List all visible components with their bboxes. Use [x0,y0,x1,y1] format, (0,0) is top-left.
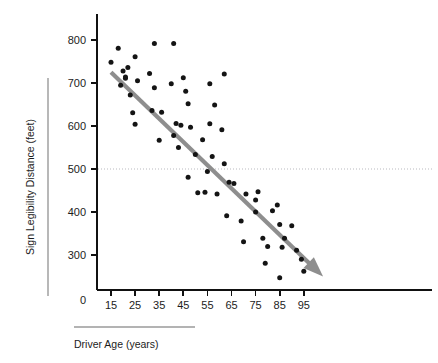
data-point [174,121,179,126]
y-tick-label: 400 [68,206,86,218]
data-point [118,83,123,88]
y-tick-label: 600 [68,120,86,132]
data-point [294,248,299,253]
data-point [301,269,306,274]
data-point [224,213,229,218]
data-point [181,75,186,80]
data-point [299,257,304,262]
data-point [277,222,282,227]
data-point [121,68,126,73]
data-point [147,71,152,76]
x-tick-label: 85 [274,299,286,311]
x-axis-title: Driver Age (years) [74,338,159,350]
trend-line-layer [111,72,323,276]
data-point [133,54,138,59]
data-point [215,191,220,196]
data-point [183,89,188,94]
y-tick-label: 700 [68,77,86,89]
x-tick-label: 45 [177,299,189,311]
x-tick-label: 55 [201,299,213,311]
data-points-layer [109,41,307,280]
data-point [241,239,246,244]
data-point [212,102,217,107]
x-tick-label: 25 [129,299,141,311]
data-point [219,127,224,132]
data-point [152,85,157,90]
data-point [265,244,270,249]
data-point [186,101,191,106]
y-tick-label: 800 [68,34,86,46]
data-point [277,275,282,280]
y-axis-title: Sign Legibility Distance (feet) [24,119,36,255]
data-point [253,197,258,202]
data-point [289,223,294,228]
data-point [125,65,130,70]
x-tick-label: 15 [105,299,117,311]
axes-layer [91,14,432,296]
data-point [171,41,176,46]
data-point [282,236,287,241]
data-point [207,81,212,86]
data-point [275,203,280,208]
y-tick-label: 300 [68,249,86,261]
data-point [207,121,212,126]
data-point [176,145,181,150]
data-point [202,190,207,195]
x-tick-label: 35 [153,299,165,311]
data-point [171,133,176,138]
data-point [263,261,268,266]
data-point [149,108,154,113]
data-point [188,125,193,130]
data-point [253,210,258,215]
data-point [135,78,140,83]
x-tick-label: 75 [249,299,261,311]
data-point [133,122,138,127]
data-point [109,60,114,65]
y-origin-label: 0 [80,294,86,306]
data-point [186,175,191,180]
data-point [260,236,265,241]
data-point [231,181,236,186]
data-point [200,137,205,142]
data-point [222,161,227,166]
data-point [205,169,210,174]
data-point [152,41,157,46]
data-point [116,46,121,51]
data-point [222,71,227,76]
data-point [178,123,183,128]
scatter-plot-figure: 8007006005004003000152535455565758595 Si… [0,0,438,363]
tick-labels-layer: 8007006005004003000152535455565758595 [68,34,310,311]
chart-canvas: 8007006005004003000152535455565758595 Si… [0,0,438,363]
data-point [210,154,215,159]
data-point [128,93,133,98]
x-tick-label: 65 [225,299,237,311]
data-point [256,189,261,194]
y-tick-label: 500 [68,163,86,175]
data-point [227,180,232,185]
x-tick-label: 95 [298,299,310,311]
data-point [193,152,198,157]
data-point [130,110,135,115]
data-point [123,74,128,79]
data-point [239,219,244,224]
data-point [157,138,162,143]
data-point [270,208,275,213]
data-point [169,81,174,86]
data-point [243,191,248,196]
data-point [280,245,285,250]
data-point [195,190,200,195]
data-point [159,110,164,115]
